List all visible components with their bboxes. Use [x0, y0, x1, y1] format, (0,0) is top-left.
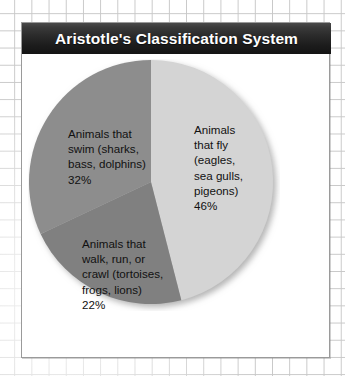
pie-chart-area: Animals that fly (eagles, sea gulls, pig… [22, 54, 331, 358]
screenshot-canvas: Aristotle's Classification System [0, 0, 345, 376]
pie-slice-label-walk: Animals that walk, run, or crawl (tortoi… [82, 236, 202, 312]
chart-card: Aristotle's Classification System [21, 22, 330, 358]
pie-slice-label-fly: Animals that fly (eagles, sea gulls, pig… [194, 122, 290, 213]
pie-slice-label-swim: Animals that swim (sharks, bass, dolphin… [68, 126, 180, 187]
chart-title-bar: Aristotle's Classification System [22, 23, 331, 54]
page-title: Aristotle's Classification System [55, 30, 298, 48]
